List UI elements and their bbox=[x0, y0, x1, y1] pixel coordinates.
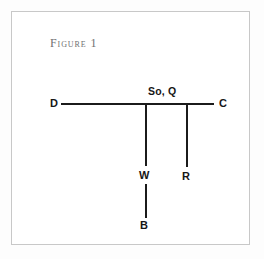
node-label-so-q: So, Q bbox=[148, 86, 176, 97]
edge-soq-to-r bbox=[186, 104, 188, 167]
edge-d-to-c bbox=[61, 103, 214, 105]
node-label-w: W bbox=[139, 170, 149, 181]
edge-soq-to-w bbox=[145, 104, 147, 166]
figure-page: Figure 1 D C So, Q W R B bbox=[0, 0, 264, 259]
node-label-b: B bbox=[140, 220, 148, 231]
edge-w-to-b bbox=[145, 184, 147, 218]
node-label-c: C bbox=[219, 98, 227, 109]
figure-caption: Figure 1 bbox=[50, 36, 97, 50]
node-label-d: D bbox=[50, 98, 58, 109]
figure-border-frame: Figure 1 D C So, Q W R B bbox=[11, 11, 250, 245]
node-label-r: R bbox=[182, 171, 190, 182]
